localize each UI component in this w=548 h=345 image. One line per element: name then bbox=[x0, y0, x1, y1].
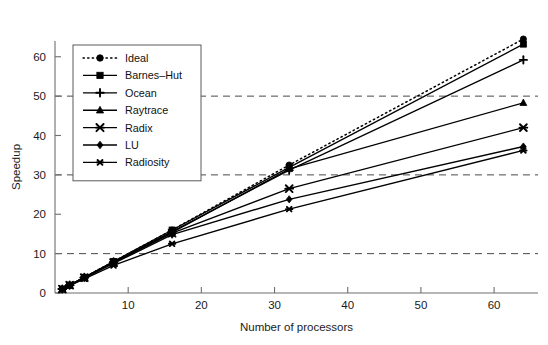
y-tick-label-10: 10 bbox=[33, 248, 46, 260]
legend-label-0: Ideal bbox=[125, 52, 148, 64]
legend-label-4: Radix bbox=[125, 122, 153, 134]
y-tick-label-50: 50 bbox=[33, 90, 46, 102]
chart-canvas: 0102030405060102030405060 Speedup Number… bbox=[0, 0, 548, 345]
series-2-point-6 bbox=[520, 56, 527, 63]
legend-marker-square bbox=[97, 72, 103, 78]
x-tick-label-60: 60 bbox=[488, 299, 501, 311]
legend-label-5: LU bbox=[125, 139, 139, 151]
series-4-point-6 bbox=[519, 124, 527, 131]
legend-label-6: Radiosity bbox=[125, 156, 170, 168]
legend-marker-circle bbox=[97, 55, 104, 62]
speedup-chart: 0102030405060102030405060 Speedup Number… bbox=[0, 0, 548, 345]
x-tick-label-40: 40 bbox=[341, 299, 354, 311]
y-tick-label-40: 40 bbox=[33, 130, 46, 142]
y-tick-label-0: 0 bbox=[40, 287, 46, 299]
series-4-point-5 bbox=[285, 185, 293, 192]
series-6-point-4 bbox=[169, 241, 175, 246]
y-tick-label-60: 60 bbox=[33, 51, 46, 63]
legend-label-1: Barnes–Hut bbox=[125, 69, 182, 81]
y-axis-title: Speedup bbox=[10, 144, 22, 190]
y-tick-label-20: 20 bbox=[33, 208, 46, 220]
chart-legend: IdealBarnes–HutOceanRaytraceRadixLURadio… bbox=[73, 45, 201, 181]
y-tick-label-30: 30 bbox=[33, 169, 46, 181]
legend-label-3: Raytrace bbox=[125, 104, 168, 116]
series-1-point-6 bbox=[520, 41, 526, 47]
x-tick-label-10: 10 bbox=[122, 299, 135, 311]
x-tick-label-50: 50 bbox=[415, 299, 428, 311]
x-tick-label-20: 20 bbox=[195, 299, 208, 311]
series-5-point-5 bbox=[286, 196, 292, 203]
x-axis-title: Number of processors bbox=[240, 321, 353, 333]
series-6-point-5 bbox=[286, 207, 292, 212]
legend-label-2: Ocean bbox=[125, 87, 157, 99]
x-tick-label-30: 30 bbox=[268, 299, 281, 311]
series-3-point-6 bbox=[520, 99, 527, 105]
